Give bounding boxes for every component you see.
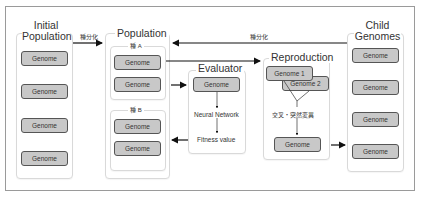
crossover-line-1: [284, 81, 297, 101]
crossover-line-2: [297, 91, 309, 101]
connector-arrows: [0, 0, 421, 197]
